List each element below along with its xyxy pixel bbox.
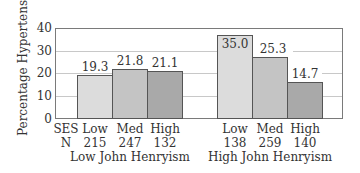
bar-low-jh-low-ses	[77, 75, 113, 119]
n-value: 138	[215, 136, 255, 150]
n-value: 140	[285, 136, 325, 150]
x-category: High	[285, 122, 325, 136]
value-label: 21.8	[110, 55, 150, 67]
value-label: 35.0	[215, 38, 255, 50]
x-category: Low	[75, 122, 115, 136]
group-label-low-jh: Low John Henryism	[60, 150, 200, 164]
value-label: 25.3	[253, 43, 293, 55]
bar-high-jh-high-ses	[287, 82, 323, 119]
n-value: 132	[145, 136, 185, 150]
y-tick-30: 30	[28, 45, 52, 57]
n-value: 215	[75, 136, 115, 150]
x-category: Low	[215, 122, 255, 136]
x-category: Med	[110, 122, 150, 136]
value-label: 19.3	[75, 61, 115, 73]
group-label-high-jh: High John Henryism	[200, 150, 340, 164]
bar-high-jh-med-ses	[252, 57, 288, 119]
n-value: 259	[250, 136, 290, 150]
bar-low-jh-med-ses	[112, 69, 148, 119]
value-label: 14.7	[288, 68, 322, 80]
x-category: Med	[250, 122, 290, 136]
y-tick-20: 20	[28, 67, 52, 79]
value-label: 21.1	[145, 57, 185, 69]
bar-low-jh-high-ses	[147, 71, 183, 119]
x-category: High	[145, 122, 185, 136]
y-tick-10: 10	[28, 90, 52, 102]
n-value: 247	[110, 136, 150, 150]
y-tick-40: 40	[28, 22, 52, 34]
